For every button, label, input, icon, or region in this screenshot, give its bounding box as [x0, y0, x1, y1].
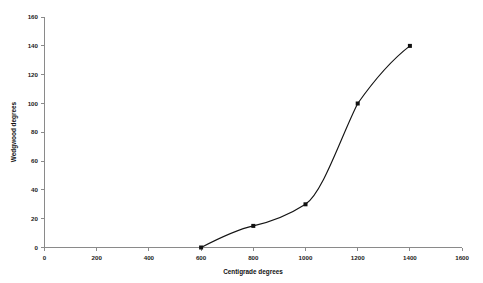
data-point-1200 — [356, 102, 360, 106]
series-line — [201, 46, 410, 248]
x-tick-label-0: 0 — [43, 254, 47, 261]
chart-container: 0 20 40 60 80 100 120 140 160 Wedgwood d… — [0, 0, 483, 283]
data-point-1000 — [304, 202, 308, 206]
y-tick-label-20: 20 — [31, 215, 38, 222]
y-axis-title: Wedgwood degrees — [10, 101, 18, 162]
x-tick-label-1400: 1400 — [403, 254, 417, 261]
data-point-800 — [251, 224, 255, 228]
y-tick-label-0: 0 — [35, 244, 39, 251]
x-tick-label-600: 600 — [196, 254, 207, 261]
y-tick-label-100: 100 — [28, 100, 39, 107]
x-tick-label-1600: 1600 — [455, 254, 469, 261]
x-axis: 0 200 400 600 800 1000 1200 1400 1600 Ce… — [43, 248, 470, 277]
y-tick-label-60: 60 — [31, 157, 38, 164]
x-axis-ticks — [45, 248, 463, 252]
x-axis-tick-labels: 0 200 400 600 800 1000 1200 1400 1600 — [43, 254, 470, 261]
y-axis-tick-labels: 0 20 40 60 80 100 120 140 160 — [28, 13, 39, 250]
x-tick-label-400: 400 — [144, 254, 155, 261]
y-tick-label-160: 160 — [28, 13, 39, 20]
wedgwood-centigrade-line-chart: 0 20 40 60 80 100 120 140 160 Wedgwood d… — [0, 0, 483, 283]
x-tick-label-1000: 1000 — [299, 254, 313, 261]
plot-area — [199, 44, 412, 250]
y-axis-ticks — [41, 17, 45, 247]
x-tick-label-200: 200 — [92, 254, 103, 261]
y-tick-label-40: 40 — [31, 186, 38, 193]
x-tick-label-1200: 1200 — [351, 254, 365, 261]
y-axis: 0 20 40 60 80 100 120 140 160 Wedgwood d… — [10, 13, 45, 250]
data-point-600 — [199, 246, 203, 250]
y-tick-label-80: 80 — [31, 128, 38, 135]
y-tick-label-120: 120 — [28, 71, 39, 78]
y-tick-label-140: 140 — [28, 42, 39, 49]
data-point-1400 — [408, 44, 412, 48]
x-axis-title: Centigrade degrees — [223, 268, 283, 276]
x-tick-label-800: 800 — [248, 254, 259, 261]
